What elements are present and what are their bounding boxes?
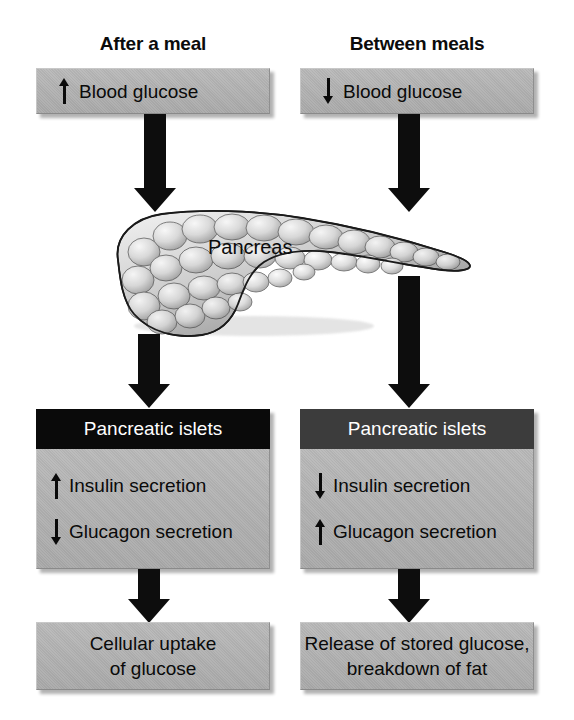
islets-line-glucagon: Glucagon secretion: [315, 519, 533, 545]
box-pancreatic-islets-right: Pancreatic islets Insulin secretion Gluc…: [300, 409, 534, 569]
outcome-line-1: Cellular uptake: [37, 631, 269, 656]
islets-body-left: Insulin secretion Glucagon secretion: [36, 449, 270, 569]
arrow-down-icon: [51, 519, 62, 545]
flow-arrow-right-to-outcome: [388, 569, 430, 625]
arrow-up-icon: [59, 78, 70, 104]
islets-header-left: Pancreatic islets: [36, 409, 270, 449]
insulin-secretion-label: Insulin secretion: [333, 475, 470, 497]
box-glucose-release: Release of stored glucose, breakdown of …: [300, 622, 534, 690]
islets-body-right: Insulin secretion Glucagon secretion: [300, 449, 534, 569]
arrow-up-icon: [51, 473, 62, 499]
insulin-secretion-label: Insulin secretion: [69, 475, 206, 497]
box-pancreatic-islets-left: Pancreatic islets Insulin secretion Gluc…: [36, 409, 270, 569]
arrow-down-icon: [315, 473, 326, 499]
column-header-after-a-meal: After a meal: [36, 33, 270, 55]
outcome-line-2: of glucose: [37, 656, 269, 681]
flow-arrow-left-to-outcome: [128, 569, 170, 625]
diagram-canvas: After a meal Between meals Blood glucose…: [0, 0, 574, 720]
blood-glucose-label: Blood glucose: [343, 80, 462, 103]
islets-line-glucagon: Glucagon secretion: [51, 519, 269, 545]
glucose-release-text: Release of stored glucose, breakdown of …: [301, 631, 533, 681]
blood-glucose-row-left: Blood glucose: [59, 78, 198, 104]
arrow-down-icon: [323, 78, 334, 104]
glucagon-secretion-label: Glucagon secretion: [333, 521, 497, 543]
outcome-line-2: breakdown of fat: [301, 656, 533, 681]
arrow-up-icon: [315, 519, 326, 545]
flow-arrow-left-to-islets: [128, 334, 170, 410]
islets-header-right: Pancreatic islets: [300, 409, 534, 449]
glucagon-secretion-label: Glucagon secretion: [69, 521, 233, 543]
pancreas-label: Pancreas: [208, 236, 293, 259]
islets-line-insulin: Insulin secretion: [51, 473, 269, 499]
islets-line-insulin: Insulin secretion: [315, 473, 533, 499]
cellular-uptake-text: Cellular uptake of glucose: [37, 631, 269, 681]
outcome-line-1: Release of stored glucose,: [301, 631, 533, 656]
flow-arrow-right-to-islets: [388, 276, 430, 410]
box-cellular-uptake: Cellular uptake of glucose: [36, 622, 270, 690]
column-header-between-meals: Between meals: [300, 33, 534, 55]
box-blood-glucose-increase: Blood glucose: [36, 68, 270, 114]
blood-glucose-row-right: Blood glucose: [323, 78, 462, 104]
blood-glucose-label: Blood glucose: [79, 80, 198, 103]
box-blood-glucose-decrease: Blood glucose: [300, 68, 534, 114]
